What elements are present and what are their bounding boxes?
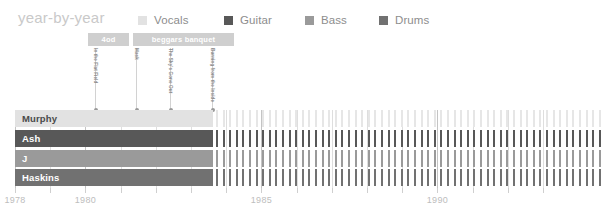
axis-tick [50,188,51,193]
stripe [216,130,218,147]
legend-item-drums[interactable]: Drums [379,10,429,24]
stripe [295,130,297,147]
row-dashed-bar [216,150,602,167]
stripe [566,130,568,147]
stripe [262,110,264,127]
stripe [546,150,548,167]
stripe [559,169,561,186]
album-bar[interactable]: beggars banquet [133,33,234,46]
timeline-row[interactable]: Haskins [0,169,602,186]
stripe [467,130,469,147]
axis-tick [156,188,157,193]
stripe [480,169,482,186]
stripe [341,130,343,147]
stripe [229,150,231,167]
stripe [440,169,442,186]
row-active-bar [15,150,213,167]
stripe [262,150,264,167]
stripe [520,169,522,186]
stripe [421,130,423,147]
row-dashed-bar [216,110,602,127]
stripe [355,130,357,147]
stripe [407,110,409,127]
stripe [427,150,429,167]
axis-tick [543,188,544,193]
axis-tick-label: 1990 [427,195,448,205]
stripe [599,110,601,127]
stripe [460,110,462,127]
stripe [216,169,218,186]
stripe [487,110,489,127]
row-dashed-bar [216,130,602,147]
legend-item-vocals[interactable]: Vocals [138,10,188,24]
stripe [394,150,396,167]
release-marker[interactable]: The Sky's Gone Out [170,48,171,110]
stripe [434,169,436,186]
stripe [513,169,515,186]
stripe [546,169,548,186]
stripe [282,130,284,147]
release-marker[interactable]: In the Flat Field [95,48,96,110]
stripe [599,130,601,147]
stripe [480,150,482,167]
stripe [427,130,429,147]
stripe [487,169,489,186]
stripe [223,130,225,147]
stripe [249,110,251,127]
timeline-row[interactable]: J [0,150,602,167]
stripe [308,150,310,167]
legend-label: Bass [321,14,347,26]
stripe [493,110,495,127]
row-label-j: J [22,150,27,167]
stripe [586,130,588,147]
stripe [493,130,495,147]
timeline-row[interactable]: Ash [0,130,602,147]
stripe [513,130,515,147]
album-bar[interactable]: 4od [88,33,129,46]
stripe [566,169,568,186]
stripe [308,130,310,147]
stripe [361,169,363,186]
stripe [467,110,469,127]
stripe [533,169,535,186]
stripe [546,130,548,147]
stripe [282,150,284,167]
x-axis: 1978198019851990 [0,188,602,213]
stripe [526,130,528,147]
axis-tick [332,188,333,193]
legend-swatch-icon [224,16,233,25]
stripe [242,110,244,127]
stripe [275,130,277,147]
stripe [520,150,522,167]
stripe [368,150,370,167]
legend-item-guitar[interactable]: Guitar [224,10,272,24]
marker-label: In the Flat Field [93,48,98,83]
stripe [269,130,271,147]
stripe [249,169,251,186]
row-active-bar [15,130,213,147]
stripe [223,169,225,186]
stripe [315,169,317,186]
stripe [487,130,489,147]
stripe [322,110,324,127]
stripe [579,110,581,127]
stripe [493,169,495,186]
release-marker[interactable]: Mask [136,48,137,110]
legend-item-bass[interactable]: Bass [305,10,347,24]
timeline-row[interactable]: Murphy [0,110,602,127]
stripe [506,110,508,127]
stripe [295,110,297,127]
stripe [533,110,535,127]
stripe [249,130,251,147]
stripe [447,110,449,127]
stripe [394,110,396,127]
stripe [289,169,291,186]
stripe [559,150,561,167]
stripe [368,130,370,147]
stripe [355,169,357,186]
stripe [374,169,376,186]
stripe [500,150,502,167]
release-marker[interactable]: Burning from the Inside [212,48,213,110]
stripe [223,150,225,167]
stripe [506,150,508,167]
